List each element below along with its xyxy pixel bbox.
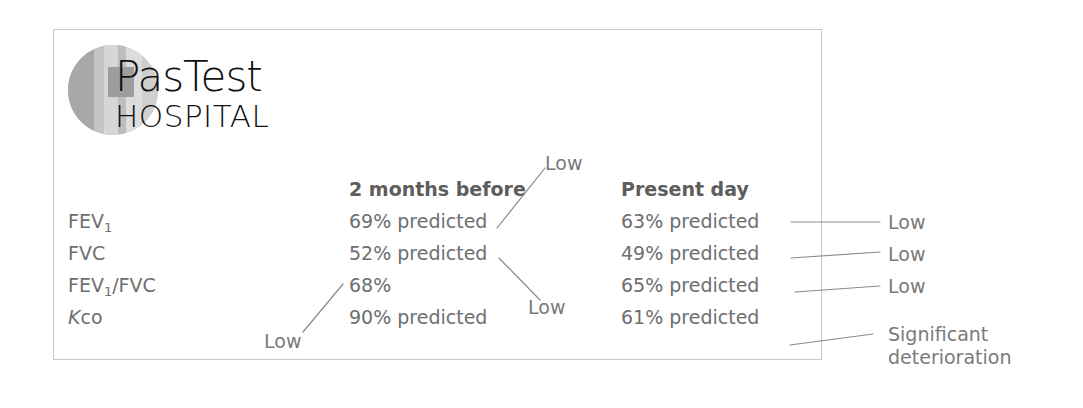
annotation-present-fev1: Low [888, 211, 925, 234]
row-label-fev1-fvc-subscript: 1 [104, 284, 112, 299]
annotation-present-kco: Significant deterioration [888, 323, 1038, 369]
annotation-present-fev1-fvc: Low [888, 275, 925, 298]
document-page: PasTest HOSPITAL 2 months before Present… [0, 0, 1083, 408]
hospital-logo: PasTest HOSPITAL [68, 45, 338, 150]
value-before-fvc: 52% predicted [349, 242, 487, 264]
row-label-fev1-main: FEV [68, 210, 104, 232]
value-present-fvc: 49% predicted [621, 242, 759, 264]
row-label-kco-main: K [68, 306, 80, 328]
row-label-fev1-subscript: 1 [104, 220, 112, 235]
logo-name-secondary: HOSPITAL [115, 99, 345, 133]
logo-name-primary: PasTest [115, 55, 345, 99]
logo-band [94, 45, 104, 135]
annotation-present-fvc: Low [888, 243, 925, 266]
value-before-fev1: 69% predicted [349, 210, 487, 232]
value-before-fev1-fvc: 68% [349, 274, 391, 296]
value-present-kco: 61% predicted [621, 306, 759, 328]
value-before-kco: 90% predicted [349, 306, 487, 328]
annotation-before-fev1-fvc: Low [264, 330, 301, 353]
row-label-fev1: FEV1 [68, 210, 112, 235]
row-label-kco: Kco [68, 306, 103, 328]
row-label-kco-tail: co [80, 306, 102, 328]
row-label-fev1-fvc-main: FEV [68, 274, 104, 296]
annotation-before-fev1: Low [545, 152, 582, 175]
logo-band [68, 45, 94, 135]
logo-wordmark: PasTest HOSPITAL [115, 55, 345, 133]
row-label-fev1-fvc: FEV1/FVC [68, 274, 156, 299]
row-label-fvc: FVC [68, 242, 105, 264]
row-label-fvc-main: FVC [68, 242, 105, 264]
annotation-before-fvc: Low [528, 296, 565, 319]
column-header-present: Present day [621, 178, 749, 200]
row-label-fev1-fvc-tail: /FVC [112, 274, 156, 296]
annotation-present-kco-line1: Significant [888, 323, 1038, 346]
annotation-present-kco-line2: deterioration [888, 346, 1038, 369]
value-present-fev1: 63% predicted [621, 210, 759, 232]
value-present-fev1-fvc: 65% predicted [621, 274, 759, 296]
column-header-before: 2 months before [349, 178, 526, 200]
